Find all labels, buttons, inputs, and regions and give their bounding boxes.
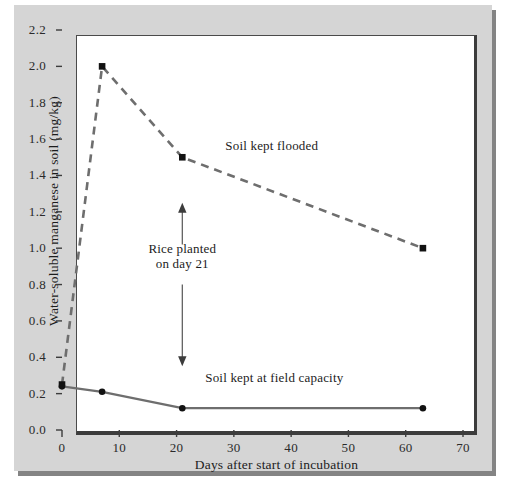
annotation-rice-planted-line1: Rice planted <box>127 241 237 256</box>
y-tick-label: 1.8 <box>6 95 46 111</box>
y-tick-label: 2.0 <box>6 58 46 74</box>
x-tick-label: 50 <box>328 440 368 456</box>
x-axis-title: Days after start of incubation <box>76 457 477 473</box>
x-tick-label: 0 <box>42 440 82 456</box>
figure-root: Water-soluble manganese in soil (mg/kg) … <box>0 0 506 493</box>
y-tick-label: 1.4 <box>6 167 46 183</box>
y-tick-label: 1.6 <box>6 131 46 147</box>
figure-panel: Water-soluble manganese in soil (mg/kg) … <box>14 5 492 471</box>
x-tick-label: 30 <box>214 440 254 456</box>
annotation-rice-planted: Rice planted on day 21 <box>127 241 237 271</box>
series-label-field-capacity: Soil kept at field capacity <box>205 370 343 386</box>
series-label-flooded: Soil kept flooded <box>225 138 318 154</box>
x-tick-label: 40 <box>271 440 311 456</box>
y-tick-label: 0.2 <box>6 386 46 402</box>
x-tick-label: 20 <box>157 440 197 456</box>
x-tick-label: 60 <box>386 440 426 456</box>
x-tick-label: 70 <box>443 440 483 456</box>
y-tick-label: 2.2 <box>6 22 46 38</box>
y-tick-label: 0.8 <box>6 277 46 293</box>
y-tick-label: 0.4 <box>6 349 46 365</box>
y-tick-label: 0.0 <box>6 422 46 438</box>
annotation-rice-planted-line2: on day 21 <box>127 256 237 271</box>
y-axis-title: Water-soluble manganese in soil (mg/kg) <box>46 51 62 371</box>
y-tick-label: 1.2 <box>6 204 46 220</box>
x-tick-label: 10 <box>99 440 139 456</box>
y-tick-label: 1.0 <box>6 240 46 256</box>
y-tick-label: 0.6 <box>6 313 46 329</box>
